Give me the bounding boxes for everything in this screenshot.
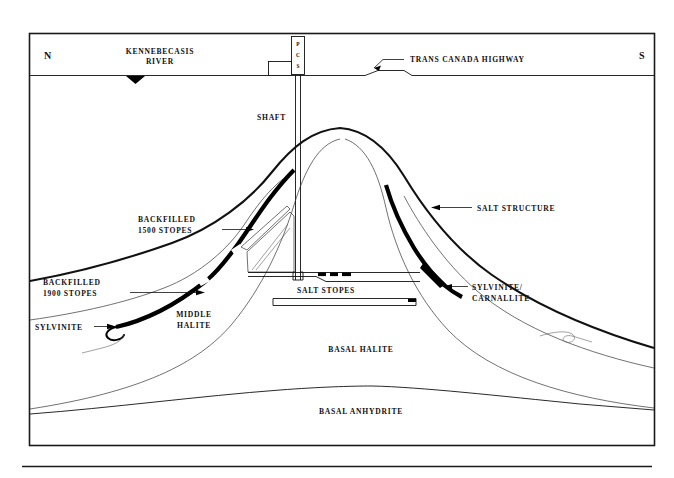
salt-core-right-flank	[345, 139, 654, 408]
shaft-label: SHAFT	[257, 113, 286, 122]
salt-core-left-flank	[30, 139, 340, 409]
middle-halite-label-line2: HALITE	[177, 321, 211, 330]
middle-halite-label-line1: MIDDLE	[176, 310, 212, 319]
headframe-letter-s: S	[297, 63, 300, 69]
hoist-house	[269, 62, 292, 76]
cross-section-diagram: P C S	[0, 0, 674, 478]
mine-level-lower	[248, 277, 420, 282]
ore-band-right-upper	[386, 185, 444, 285]
sylvinite-tail-line	[82, 335, 124, 353]
river-label-line1: KENNEBECASIS	[126, 47, 195, 56]
backfilled-1900-arrowhead	[196, 290, 205, 296]
salt-stopes-label: SALT STOPES	[297, 286, 355, 295]
river-marker-icon	[126, 76, 145, 84]
compass-north-label: N	[44, 50, 52, 61]
pillar-tick-1	[318, 273, 326, 277]
salt-dome-outer-boundary	[30, 128, 654, 348]
backfilled-1900-label-line2: 1900 STOPES	[43, 289, 97, 298]
shaft-bottom-station	[293, 272, 303, 280]
lower-right-hook-feature	[540, 332, 592, 343]
backfilled-1500-label-line2: 1500 STOPES	[138, 226, 192, 235]
pillar-tick-2	[330, 273, 338, 277]
sylvinite-carnallite-label-line2: CARNALLITE	[472, 294, 530, 303]
river-label-line2: RIVER	[146, 57, 174, 66]
backfilled-1900-label-line1: BACKFILLED	[43, 278, 101, 287]
salt-structure-label: SALT STRUCTURE	[477, 204, 555, 213]
sylvinite-carnallite-label-line1: SYLVINITE/	[472, 283, 523, 292]
ground-surface-line	[30, 71, 654, 76]
salt-structure-arrowhead	[431, 205, 440, 211]
figure-root: P C S	[0, 0, 674, 478]
headframe-letter-c: C	[296, 52, 300, 58]
backfilled-1500-label-line1: BACKFILLED	[138, 215, 196, 224]
salt-stope-end-marker	[408, 299, 416, 302]
diagram-frame	[30, 34, 655, 446]
sylvinite-hook-tip	[106, 327, 124, 340]
sylvinite-label: SYLVINITE	[35, 323, 83, 332]
pillar-tick-3	[342, 273, 351, 277]
basal-halite-label: BASAL HALITE	[328, 345, 393, 354]
salt-stope-panel	[273, 299, 416, 306]
basal-anhydrite-label: BASAL ANHYDRITE	[319, 407, 403, 416]
ore-band-right-thickening	[420, 262, 446, 288]
compass-south-label: S	[639, 50, 645, 61]
highway-label: TRANS CANADA HIGHWAY	[410, 55, 525, 64]
